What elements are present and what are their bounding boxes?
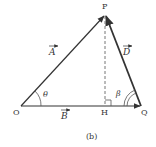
vector-d-line [106, 16, 141, 106]
point-label-q: Q [141, 108, 148, 117]
vector-triangle-diagram: P O H Q A D B θ β (b) [0, 0, 156, 147]
vector-a-line [21, 16, 104, 106]
point-label-h: H [101, 108, 108, 117]
svg-text:A: A [48, 47, 56, 57]
svg-text:B: B [60, 111, 68, 121]
angle-label-theta: θ [43, 90, 48, 99]
vector-a-label: A [48, 46, 58, 57]
point-label-p: P [102, 2, 108, 11]
point-label-o: O [13, 108, 20, 117]
angle-label-beta: β [115, 89, 121, 98]
vector-b-label: B [60, 110, 70, 121]
svg-text:D: D [122, 47, 130, 57]
vector-d-label: D [122, 46, 132, 57]
figure-caption: (b) [86, 132, 97, 141]
right-angle-marker [105, 100, 111, 106]
theta-arc [35, 91, 41, 106]
